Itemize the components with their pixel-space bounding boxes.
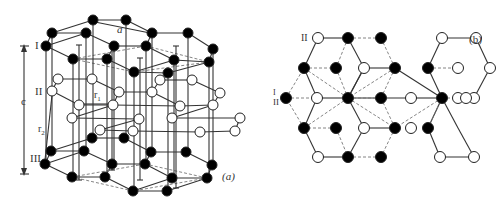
white-atom [95, 125, 105, 135]
black-atom [423, 123, 434, 134]
white-atom [406, 123, 417, 134]
panel-b-projection [281, 33, 496, 163]
black-atom [163, 68, 173, 78]
black-atom [67, 172, 77, 182]
white-atom [312, 93, 323, 104]
arrow-up-icon [21, 44, 27, 52]
black-atom [343, 152, 354, 163]
black-atom [331, 63, 342, 74]
black-atom [109, 41, 119, 51]
r1-label: r1 [94, 90, 101, 103]
white-atom [167, 113, 177, 123]
black-atom [169, 55, 179, 65]
black-atom [146, 147, 156, 157]
white-atom [435, 152, 446, 163]
black-atom [281, 93, 292, 104]
black-atom [47, 28, 57, 38]
white-atom [313, 152, 324, 163]
black-atom [207, 160, 217, 170]
black-atom [181, 147, 191, 157]
panel-b-layer-label-II: II [273, 98, 279, 107]
black-atom [140, 159, 150, 169]
black-atom [437, 93, 448, 104]
black-atom [343, 33, 354, 44]
layer-label-I: I [35, 40, 39, 51]
white-atom [67, 113, 77, 123]
white-atom [74, 100, 84, 110]
black-atom [46, 146, 56, 156]
white-atom [155, 75, 165, 85]
white-atom [235, 113, 245, 123]
white-atom [208, 100, 218, 110]
black-atom [202, 173, 212, 183]
bond [133, 131, 200, 132]
black-atom [204, 57, 214, 67]
white-atom [108, 100, 118, 110]
white-atom [485, 63, 496, 74]
black-atom [299, 63, 310, 74]
black-atom [208, 44, 218, 54]
white-atom [87, 74, 97, 84]
black-atom [331, 123, 342, 134]
white-atom [215, 88, 225, 98]
hcp-lattice-figure [0, 0, 496, 208]
black-atom [376, 93, 387, 104]
black-atom [376, 152, 387, 163]
panel-b-layer-label-I: I [273, 89, 276, 97]
black-atom [79, 146, 89, 156]
black-atom [183, 28, 193, 38]
white-atom [461, 93, 472, 104]
panel-b-layer-label-II-top: II [301, 33, 308, 43]
layer-label-II: II [35, 86, 42, 97]
black-atom [68, 54, 78, 64]
black-atom [376, 33, 387, 44]
black-atom [88, 15, 98, 25]
layer-label-III: III [30, 153, 41, 164]
white-atom [114, 87, 124, 97]
black-atom [81, 28, 91, 38]
white-atom [53, 74, 63, 84]
black-atom [100, 172, 110, 182]
white-atom [230, 126, 240, 136]
white-atom [147, 87, 157, 97]
black-atom [102, 54, 112, 64]
panel-a-3d-lattice [20, 15, 245, 196]
black-atom [299, 123, 310, 134]
black-atom [87, 133, 97, 143]
black-atom [162, 186, 172, 196]
white-atom [359, 123, 370, 134]
white-atom [453, 63, 464, 74]
panel-a-caption: (a) [222, 171, 235, 182]
lattice-constant-c-label: c [21, 96, 26, 107]
r2-label: r2 [38, 124, 45, 137]
black-atom [128, 186, 138, 196]
white-atom [313, 33, 324, 44]
black-atom [167, 173, 177, 183]
black-atom [423, 63, 434, 74]
white-atom [128, 126, 138, 136]
black-atom [40, 159, 50, 169]
white-atom [359, 63, 370, 74]
black-atom [107, 159, 117, 169]
bond [72, 118, 139, 119]
black-atom [390, 123, 401, 134]
white-atom [469, 152, 480, 163]
white-atom [175, 101, 185, 111]
black-atom [119, 133, 129, 143]
white-atom [47, 86, 57, 96]
white-atom [406, 93, 417, 104]
black-atom [147, 28, 157, 38]
lattice-constant-a-label: a [117, 24, 123, 35]
arrow-down-icon [21, 168, 27, 176]
black-atom [343, 93, 354, 104]
panel-b-caption: (b) [469, 34, 482, 45]
black-atom [129, 67, 139, 77]
black-atom [41, 41, 51, 51]
white-atom [134, 114, 144, 124]
white-atom [187, 75, 197, 85]
white-atom [195, 127, 205, 137]
black-atom [141, 41, 151, 51]
white-atom [437, 33, 448, 44]
black-atom [390, 63, 401, 74]
